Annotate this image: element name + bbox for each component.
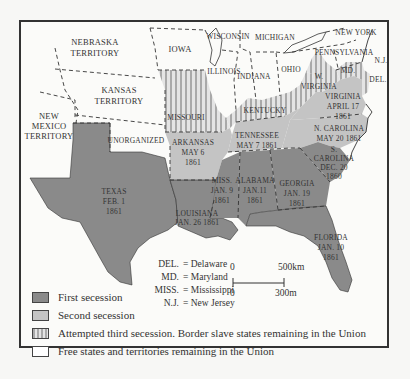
legend-item-free-states: Free states and territories remaining in… (32, 342, 366, 360)
label-unorganized: UNORGANIZED (108, 136, 165, 145)
abbr-key: DEL. (137, 258, 179, 271)
label-michigan: MICHIGAN (255, 33, 295, 42)
label-alabama-3: 1861 (247, 196, 263, 205)
swatch-third-secession (32, 328, 49, 339)
label-new-york: NEW YORK (335, 28, 377, 37)
scale-km-end: 500km (278, 262, 304, 272)
swatch-first-secession (32, 292, 49, 303)
label-alabama-2: JAN.11 (243, 186, 267, 195)
label-virginia-2: APRIL 17 (327, 102, 359, 111)
label-texas-3: 1861 (106, 207, 122, 216)
label-florida-1: FLORIDA (314, 233, 348, 242)
label-louisiana-2: JAN. 26 1861 (175, 218, 219, 227)
label-virginia-1: VIRGINIA (325, 92, 361, 101)
swatch-second-secession (32, 310, 49, 321)
label-tennessee-2: MAY 7 1861 (236, 141, 277, 150)
label-miss-1: MISS. (212, 176, 232, 185)
label-tennessee-1: TENNESSEE (235, 131, 279, 140)
legend-label: Free states and territories remaining in… (58, 345, 274, 357)
abbr-value: = Delaware (183, 258, 227, 271)
legend-label: First secession (58, 291, 122, 303)
label-nebraska-2: TERRITORY (71, 48, 120, 58)
label-s-carolina-3: DEC. 20 (320, 163, 348, 172)
label-new-mexico-2: MEXICO (32, 121, 67, 131)
scale-km-start: 0 (230, 262, 235, 272)
label-nj: N.J. (375, 56, 388, 65)
label-georgia-3: 1861 (289, 199, 305, 208)
label-miss-3: 1861 (214, 196, 230, 205)
label-n-carolina-2: MAY 20 1861 (317, 134, 362, 143)
label-kansas-2: TERRITORY (95, 96, 144, 106)
label-n-carolina-1: N. CAROLINA (314, 124, 364, 133)
label-new-mexico-3: TERRITORY (25, 131, 74, 141)
label-pennsylvania: PENNSYLVANIA (315, 48, 374, 57)
swatch-free-states (32, 346, 49, 357)
scale-bar (233, 278, 284, 287)
label-md: MD. (341, 66, 356, 75)
label-illinois: ILLINOIS (207, 67, 240, 76)
label-nebraska-1: NEBRASKA (71, 37, 119, 47)
label-arkansas-3: 1861 (185, 158, 201, 167)
label-alabama-1: ALABAMA (235, 176, 275, 185)
label-w-virginia-1: W. (315, 72, 324, 81)
label-georgia-2: JAN. 19 (284, 189, 310, 198)
label-missouri: MISSOURI (167, 113, 205, 122)
label-texas-1: TEXAS (101, 187, 126, 196)
label-kansas-1: KANSAS (101, 85, 136, 95)
label-texas-2: FEB. 1 (103, 197, 126, 206)
label-florida-3: 1861 (323, 253, 339, 262)
label-iowa: IOWA (169, 44, 193, 54)
abbr-key: MD. (137, 271, 179, 284)
label-s-carolina-1: S. (331, 145, 337, 154)
label-kentucky: KENTUCKY (244, 106, 287, 115)
label-wisconsin: WISCONSIN (206, 32, 250, 41)
label-virginia-3: 1861 (335, 112, 351, 121)
legend-item-third-secession: Attempted third secession. Border slave … (32, 324, 366, 342)
legend-label: Attempted third secession. Border slave … (58, 327, 366, 339)
label-w-virginia-2: VIRGINIA (301, 82, 337, 91)
label-arkansas-1: ARKANSAS (172, 138, 214, 147)
label-new-mexico-1: NEW (39, 111, 59, 121)
abbr-value: = Maryland (183, 271, 228, 284)
label-del: DEL. (369, 75, 386, 84)
label-georgia-1: GEORGIA (279, 179, 315, 188)
label-florida-2: JAN. 10 (318, 243, 344, 252)
label-s-carolina-4: 1860 (326, 172, 342, 181)
map-legend: First secession Second secession Attempt… (32, 288, 366, 360)
label-s-carolina-2: CAROLINA (314, 154, 355, 163)
label-indiana: INDIANA (237, 72, 271, 81)
legend-item-first-secession: First secession (32, 288, 366, 306)
label-miss-2: JAN. 9 (211, 186, 234, 195)
region-missouri (158, 70, 230, 132)
legend-label: Second secession (58, 309, 135, 321)
label-ohio: OHIO (281, 65, 301, 74)
label-louisiana-1: LOUISIANA (176, 209, 219, 218)
label-arkansas-2: MAY 6 (181, 148, 204, 157)
legend-item-second-secession: Second secession (32, 306, 366, 324)
